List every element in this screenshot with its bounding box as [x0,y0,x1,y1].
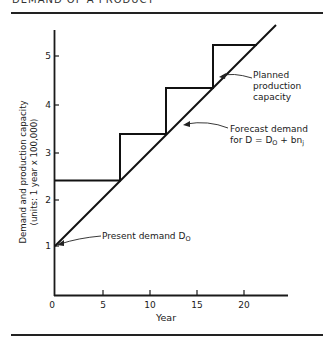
svg-text:production: production [253,81,301,91]
svg-text:5: 5 [45,51,51,61]
svg-text:Planned: Planned [253,70,289,80]
svg-text:3: 3 [45,148,51,158]
svg-text:1: 1 [45,241,51,251]
svg-text:20: 20 [238,300,250,310]
x-ticks [103,290,244,295]
svg-text:0: 0 [49,300,55,310]
bottom-rule [11,334,323,336]
svg-text:for D = DO + bnj: for D = DO + bnj [230,135,304,147]
svg-text:5: 5 [100,300,106,310]
svg-text:Demand and production capacity: Demand and production capacity [18,100,28,243]
x-axis-title: Year [155,312,176,323]
svg-text:4: 4 [45,100,51,110]
svg-text:(units: 1 year x 100,000): (units: 1 year x 100,000) [29,119,39,226]
svg-text:10: 10 [144,300,156,310]
svg-text:2: 2 [45,195,51,205]
annotation-present-demand: Present demand DO [57,231,191,246]
demand-chart: 5 4 3 2 1 0 5 10 15 20 Year Demand and p… [0,0,333,343]
annotation-planned-capacity: Planned production capacity [219,70,301,102]
y-tick-labels: 5 4 3 2 1 [45,51,51,251]
svg-text:15: 15 [191,300,202,310]
svg-text:Present demand DO: Present demand DO [102,231,191,243]
svg-text:capacity: capacity [253,92,292,102]
x-tick-labels: 0 5 10 15 20 [49,300,250,310]
svg-text:Forecast demand: Forecast demand [230,124,308,134]
planned-capacity-steps [55,45,257,181]
y-axis-title: Demand and production capacity (units: 1… [18,100,39,243]
annotation-forecast-demand: Forecast demand for D = DO + bnj [183,121,308,147]
